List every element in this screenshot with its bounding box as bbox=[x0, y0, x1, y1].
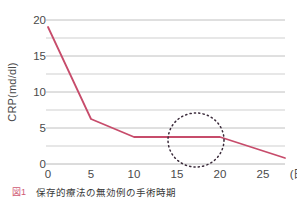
figure-container: CRP(md/dl) 20 15 10 5 0 0 5 10 15 bbox=[0, 0, 297, 198]
x-axis-tick-labels: 0 5 10 15 20 25 (日) bbox=[0, 167, 297, 185]
x-tick-20: 20 bbox=[200, 167, 240, 181]
x-tick-5: 5 bbox=[71, 167, 111, 181]
x-axis-unit-label: (日) bbox=[279, 167, 297, 181]
x-tick-25: 25 bbox=[243, 167, 283, 181]
gridlines bbox=[46, 20, 285, 164]
x-tick-10: 10 bbox=[114, 167, 154, 181]
figure-caption-text: 保存的療法の無効例の手術時期 bbox=[30, 187, 176, 198]
figure-caption: 図1 保存的療法の無効例の手術時期 bbox=[0, 187, 297, 198]
x-tick-15: 15 bbox=[157, 167, 197, 181]
figure-caption-number: 図1 bbox=[0, 187, 26, 198]
x-tick-0: 0 bbox=[28, 167, 68, 181]
dotted-circle-annotation bbox=[168, 113, 224, 167]
